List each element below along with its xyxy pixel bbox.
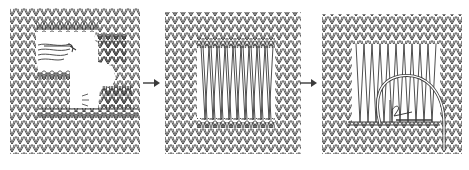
panel-weaving-needle: [320, 0, 465, 170]
arrow-right-icon: [300, 78, 318, 88]
panel-vertical-threads: [163, 0, 303, 170]
weaving-illustration: [320, 0, 465, 160]
vertical-threads-illustration: [163, 0, 303, 160]
panel-damaged-fabric: [8, 0, 143, 170]
arrow-right-icon: [143, 78, 161, 88]
damaged-fabric-illustration: [8, 0, 143, 160]
